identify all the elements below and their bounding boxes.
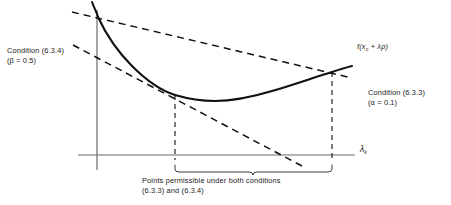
axis-label-lambda-k: λk <box>360 145 367 156</box>
function-label-subscript: c <box>366 46 369 52</box>
annotation-condition-634-line2: (β = 0.5) <box>7 56 64 66</box>
annotation-function-label: f(xc + λp) <box>357 42 388 53</box>
annotation-permissible-note-line1: Points permissible under both conditions <box>142 176 281 186</box>
function-label-prefix: f(x <box>357 42 366 51</box>
annotation-permissible-note-line2: (6.3.3) and (6.3.4) <box>142 186 281 196</box>
annotation-condition-634-line1: Condition (6.3.4) <box>7 46 64 56</box>
axis-label-subscript: k <box>364 149 367 155</box>
objective-function-curve <box>92 2 352 101</box>
condition-634-line <box>73 45 302 166</box>
annotation-permissible-note: Points permissible under both conditions… <box>142 176 281 195</box>
annotation-condition-633-line2: (α = 0.1) <box>368 98 425 108</box>
function-label-suffix: + λp) <box>369 42 389 51</box>
permissible-interval-brace <box>175 165 332 175</box>
annotation-condition-633-line1: Condition (6.3.3) <box>368 88 425 98</box>
annotation-condition-634: Condition (6.3.4) (β = 0.5) <box>7 46 64 65</box>
annotation-condition-633: Condition (6.3.3) (α = 0.1) <box>368 88 425 107</box>
figure-canvas: Condition (6.3.4) (β = 0.5) Condition (6… <box>0 0 451 205</box>
